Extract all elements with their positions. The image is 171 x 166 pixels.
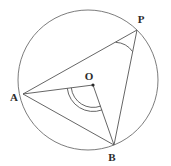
segment-AP (23, 30, 137, 94)
segment-OB (93, 85, 114, 145)
point-label-A: A (10, 91, 18, 103)
geometry-figure: A P B O (0, 0, 171, 166)
point-label-B: B (108, 151, 116, 163)
point-label-O: O (85, 70, 94, 82)
geometry-svg: A P B O (0, 0, 171, 166)
center-point-dot (91, 83, 94, 86)
point-label-P: P (138, 13, 145, 25)
segment-AO (23, 85, 93, 94)
angle-arc-APB (116, 42, 133, 51)
segment-AB (23, 94, 114, 145)
segment-PB (114, 30, 137, 145)
